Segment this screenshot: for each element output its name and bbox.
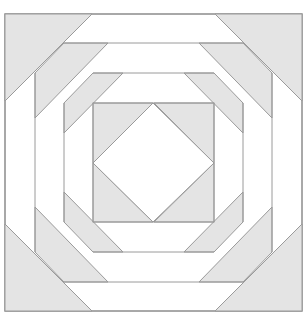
quilt-block-figure: Pineapple quilt block diagram <box>0 0 305 322</box>
quilt-block-svg <box>0 0 305 322</box>
